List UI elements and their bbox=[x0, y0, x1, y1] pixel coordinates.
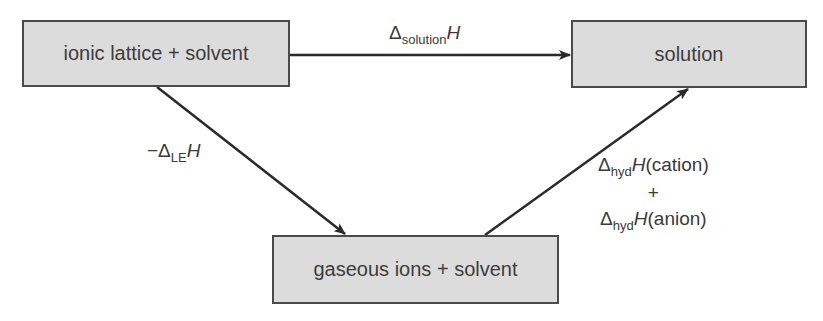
hydration-anion-line: ΔhydH(anion) bbox=[598, 206, 709, 234]
delta-symbol: Δ bbox=[389, 22, 402, 43]
hydration-cation-line: ΔhydH(cation) bbox=[598, 152, 709, 180]
species: (anion) bbox=[648, 208, 707, 229]
node-gaseous-ions-solvent: gaseous ions + solvent bbox=[272, 235, 559, 304]
edge-label-solution-enthalpy: ΔsolutionH bbox=[389, 22, 460, 44]
delta-symbol: Δ bbox=[158, 140, 171, 161]
delta-symbol: Δ bbox=[600, 208, 613, 229]
node-label: gaseous ions + solvent bbox=[313, 258, 517, 281]
enthalpy-symbol: H bbox=[447, 22, 461, 43]
subscript: solution bbox=[402, 32, 447, 47]
edge-label-lattice-enthalpy: −ΔLEH bbox=[147, 140, 200, 162]
edge-label-hydration-enthalpy: ΔhydH(cation) + ΔhydH(anion) bbox=[598, 152, 709, 234]
node-label: solution bbox=[655, 43, 724, 66]
enthalpy-symbol: H bbox=[634, 208, 648, 229]
plus-sign: + bbox=[598, 180, 709, 206]
enthalpy-symbol: H bbox=[632, 154, 646, 175]
node-ionic-lattice-solvent: ionic lattice + solvent bbox=[22, 20, 290, 87]
node-label: ionic lattice + solvent bbox=[63, 42, 248, 65]
minus-sign: − bbox=[147, 140, 158, 161]
subscript: LE bbox=[171, 150, 187, 165]
delta-symbol: Δ bbox=[598, 154, 611, 175]
node-solution: solution bbox=[571, 20, 807, 88]
subscript: hyd bbox=[611, 164, 632, 179]
subscript: hyd bbox=[613, 218, 634, 233]
species: (cation) bbox=[645, 154, 708, 175]
enthalpy-symbol: H bbox=[187, 140, 201, 161]
